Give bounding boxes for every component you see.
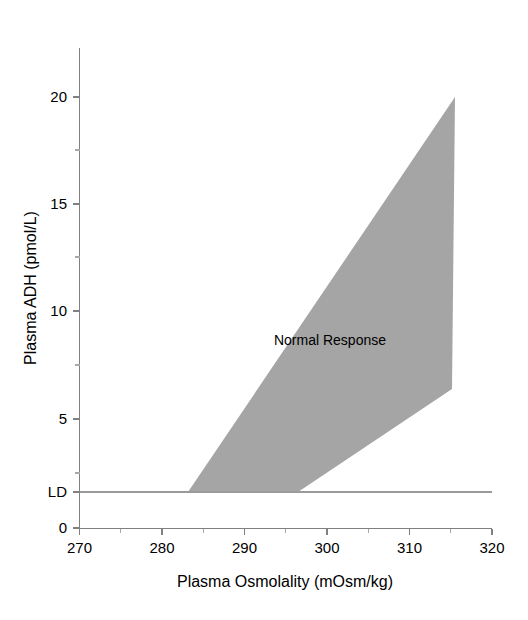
y-tick-label-5: 5	[59, 410, 67, 427]
chart-figure: 0 5 10 15 20 LD 270 280 290 300 310 320	[0, 0, 528, 620]
y-axis-title: Plasma ADH (pmol/L)	[22, 211, 39, 365]
x-tick-label-270: 270	[67, 539, 92, 556]
x-axis-title: Plasma Osmolality (mOsm/kg)	[177, 573, 393, 590]
y-tick-label-ld: LD	[48, 483, 67, 500]
x-tick-label-310: 310	[397, 539, 422, 556]
normal-response-label: Normal Response	[274, 332, 386, 348]
x-tick-label-290: 290	[232, 539, 257, 556]
y-tick-label-20: 20	[50, 88, 67, 105]
x-tick-label-280: 280	[149, 539, 174, 556]
y-tick-label-15: 15	[50, 195, 67, 212]
adh-osmolality-plot: 0 5 10 15 20 LD 270 280 290 300 310 320	[0, 0, 528, 620]
x-tick-label-300: 300	[314, 539, 339, 556]
x-tick-label-320: 320	[479, 539, 504, 556]
y-tick-label-0: 0	[59, 519, 67, 536]
y-tick-label-10: 10	[50, 302, 67, 319]
